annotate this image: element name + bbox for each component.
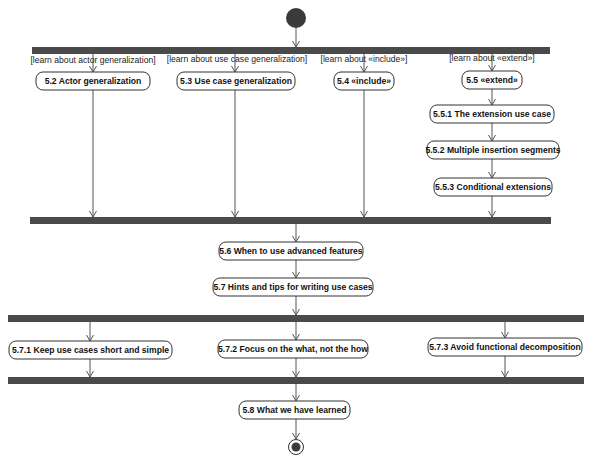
control-flow-edge: [361, 90, 368, 217]
control-flow-edge: [87, 322, 94, 341]
guard-label: [learn about actor generalization]: [30, 55, 155, 65]
activity-node-n573[interactable]: 5.7.3 Avoid functional decomposition: [428, 338, 582, 356]
control-flow-edge: [90, 90, 97, 217]
activity-node-label: 5.3 Use case generalization: [180, 76, 292, 86]
guard-label: [learn about «extend»]: [449, 53, 535, 63]
control-flow-edge: [489, 123, 496, 141]
activity-node-label: 5.7.1 Keep use cases short and simple: [12, 345, 169, 355]
control-flow-edge: [502, 356, 509, 377]
activity-node-n54[interactable]: 5.4 «include»: [334, 72, 394, 90]
control-flow-edge: [293, 224, 300, 242]
control-flow-edge: [489, 89, 496, 105]
activity-node-label: 5.8 What we have learned: [242, 405, 346, 415]
activity-node-n572[interactable]: 5.7.2 Focus on the what, not the how: [218, 340, 368, 358]
control-flow-edge: [293, 322, 300, 340]
activity-diagram: [learn about actor generalization][learn…: [0, 0, 594, 466]
control-flow-edge: [293, 358, 300, 377]
control-flow-edge: [293, 296, 300, 315]
activity-node-label: 5.5.2 Multiple insertion segments: [425, 145, 560, 155]
control-flow-edge: [293, 260, 300, 278]
control-flow-edge: [293, 384, 300, 401]
activity-node-n56[interactable]: 5.6 When to use advanced features: [219, 242, 363, 260]
activity-node-n58[interactable]: 5.8 What we have learned: [239, 401, 350, 419]
guard-labels: [learn about actor generalization][learn…: [30, 53, 534, 65]
activity-node-n53[interactable]: 5.3 Use case generalization: [177, 72, 295, 90]
activity-node-label: 5.4 «include»: [337, 76, 391, 86]
fork-bar: [8, 315, 584, 322]
activity-node-label: 5.7.3 Avoid functional decomposition: [429, 342, 581, 352]
activity-node-label: 5.7.2 Focus on the what, not the how: [218, 344, 368, 354]
control-flow-edge: [232, 90, 239, 217]
control-flow-edge: [502, 322, 509, 338]
join-bar: [30, 217, 551, 224]
activity-node-n553[interactable]: 5.5.3 Conditional extensions: [434, 178, 552, 196]
guard-label: [learn about «include»]: [321, 54, 408, 64]
guard-label: [learn about use case generalization]: [167, 54, 307, 64]
activity-node-n552[interactable]: 5.5.2 Multiple insertion segments: [425, 141, 560, 159]
activity-node-n52[interactable]: 5.2 Actor generalization: [36, 72, 150, 90]
control-flow-edge: [489, 159, 496, 178]
activity-node-label: 5.7 Hints and tips for writing use cases: [213, 282, 372, 292]
initial-node-icon: [286, 8, 306, 28]
activity-node-label: 5.6 When to use advanced features: [219, 246, 362, 256]
activity-node-label: 5.2 Actor generalization: [45, 76, 142, 86]
final-node-icon: [289, 440, 304, 455]
activity-node-label: 5.5.3 Conditional extensions: [435, 182, 551, 192]
control-flow-edge: [87, 359, 94, 377]
control-flow-edge: [293, 28, 300, 47]
activity-node-n55[interactable]: 5.5 «extend»: [462, 71, 522, 89]
activity-node-label: 5.5 «extend»: [466, 75, 518, 85]
join-bar: [8, 377, 584, 384]
control-flow-edge: [293, 419, 300, 439]
activity-node-label: 5.5.1 The extension use case: [433, 109, 551, 119]
activity-node-n57[interactable]: 5.7 Hints and tips for writing use cases: [213, 278, 373, 296]
control-flow-edge: [489, 196, 496, 217]
activity-node-n551[interactable]: 5.5.1 The extension use case: [430, 105, 554, 123]
activity-node-n571[interactable]: 5.7.1 Keep use cases short and simple: [9, 341, 172, 359]
